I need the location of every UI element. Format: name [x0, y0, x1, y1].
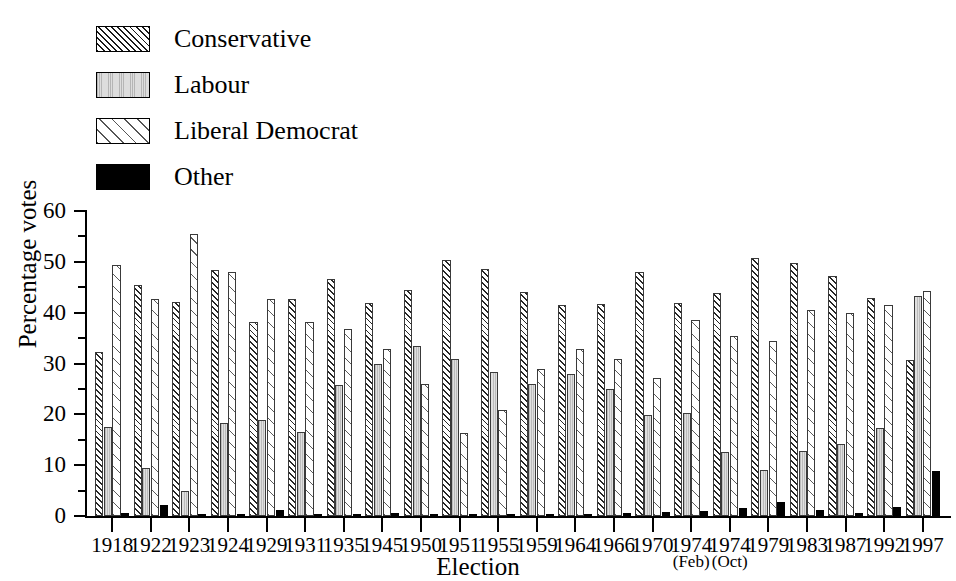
legend-item-labour[interactable]: Labour: [96, 62, 358, 108]
bar-libdem-1959: [537, 369, 545, 516]
bar-libdem-1970: [653, 378, 661, 516]
y-tick-50: [74, 261, 85, 263]
y-tick-label-10: 10: [22, 453, 66, 476]
bar-libdem-1979: [769, 341, 777, 516]
bar-other-1959: [546, 514, 554, 516]
bar-labour-1987: [837, 444, 845, 516]
x-tick-6: [343, 518, 345, 532]
bar-conservative-1931: [288, 299, 296, 516]
bar-labour-1974-oct: [721, 452, 729, 516]
bar-libdem-1918: [112, 265, 120, 516]
bar-labour-1929: [258, 420, 266, 516]
bar-other-1983: [816, 510, 824, 516]
bar-conservative-1951: [442, 260, 450, 516]
bar-libdem-1974-oct: [730, 336, 738, 516]
x-tick-0: [111, 518, 113, 532]
bar-libdem-1922: [151, 299, 159, 516]
bar-other-1935: [353, 514, 361, 516]
bar-labour-1979: [760, 470, 768, 516]
y-tick-label-0: 0: [22, 504, 66, 527]
chart-legend: ConservativeLabourLiberal DemocratOther: [96, 16, 358, 200]
x-tick-1: [150, 518, 152, 532]
x-tick-20: [883, 518, 885, 532]
bar-conservative-1955: [481, 269, 489, 516]
bar-other-1924: [237, 514, 245, 516]
x-tick-4: [266, 518, 268, 532]
bar-labour-1955: [490, 372, 498, 516]
bar-other-1974-oct: [739, 508, 747, 516]
legend-swatch-libdem-icon: [96, 118, 150, 144]
bar-libdem-1945: [383, 349, 391, 516]
bar-labour-1923: [181, 491, 189, 516]
y-tick-45: [78, 286, 85, 288]
bar-conservative-1987: [828, 276, 836, 516]
bar-labour-1918: [104, 427, 112, 516]
y-tick-35: [78, 337, 85, 339]
x-tick-3: [227, 518, 229, 532]
bar-labour-1931: [297, 432, 305, 516]
legend-swatch-other-icon: [96, 164, 150, 190]
legend-label-conservative: Conservative: [174, 26, 311, 52]
bar-conservative-1992: [867, 298, 875, 516]
x-tick-9: [459, 518, 461, 532]
y-tick-5: [78, 490, 85, 492]
bar-conservative-1997: [906, 360, 914, 516]
bar-libdem-1964: [576, 349, 584, 516]
y-tick-0: [74, 515, 85, 517]
y-tick-55: [78, 235, 85, 237]
y-tick-30: [74, 363, 85, 365]
x-tick-2: [188, 518, 190, 532]
legend-label-libdem: Liberal Democrat: [174, 118, 358, 144]
x-tick-14: [652, 518, 654, 532]
bar-other-1974-feb: [700, 511, 708, 516]
x-tick-15: [690, 518, 692, 532]
bar-other-1997: [932, 471, 940, 516]
legend-swatch-labour-icon: [96, 72, 150, 98]
x-axis-line: [85, 516, 951, 518]
bar-conservative-1945: [365, 303, 373, 517]
bar-other-1931: [314, 514, 322, 516]
x-tick-5: [304, 518, 306, 532]
bar-conservative-1983: [790, 263, 798, 516]
bar-libdem-1923: [190, 234, 198, 516]
bar-libdem-1966: [614, 359, 622, 516]
legend-item-conservative[interactable]: Conservative: [96, 16, 358, 62]
y-tick-10: [74, 464, 85, 466]
bar-labour-1951: [451, 359, 459, 516]
bar-labour-1964: [567, 374, 575, 516]
bar-other-1966: [623, 513, 631, 516]
y-axis-title: Percentage votes: [14, 114, 42, 414]
bar-libdem-1935: [344, 329, 352, 516]
bar-other-1945: [391, 513, 399, 516]
bar-libdem-1987: [846, 313, 854, 516]
bar-labour-1970: [644, 415, 652, 516]
bar-other-1923: [198, 514, 206, 516]
legend-item-other[interactable]: Other: [96, 154, 358, 200]
bar-other-1992: [893, 507, 901, 516]
bar-conservative-1918: [95, 352, 103, 516]
bar-labour-1992: [876, 428, 884, 516]
x-tick-17: [767, 518, 769, 532]
bar-labour-1950: [413, 346, 421, 516]
bar-conservative-1922: [134, 285, 142, 516]
y-tick-60: [74, 210, 85, 212]
bar-libdem-1950: [421, 384, 429, 516]
bar-conservative-1929: [249, 322, 257, 516]
bar-other-1929: [276, 510, 284, 516]
bar-labour-1959: [528, 384, 536, 516]
bar-conservative-1974-oct: [713, 293, 721, 516]
bar-libdem-1924: [228, 272, 236, 516]
x-tick-12: [574, 518, 576, 532]
bar-conservative-1959: [520, 292, 528, 516]
x-tick-11: [536, 518, 538, 532]
bar-labour-1997: [914, 296, 922, 516]
bar-labour-1922: [142, 468, 150, 516]
bar-labour-1945: [374, 364, 382, 517]
legend-item-libdem[interactable]: Liberal Democrat: [96, 108, 358, 154]
bar-conservative-1979: [751, 258, 759, 516]
bar-conservative-1923: [172, 302, 180, 516]
y-tick-40: [74, 312, 85, 314]
bar-labour-1935: [335, 385, 343, 516]
bar-conservative-1950: [404, 290, 412, 516]
x-tick-18: [806, 518, 808, 532]
